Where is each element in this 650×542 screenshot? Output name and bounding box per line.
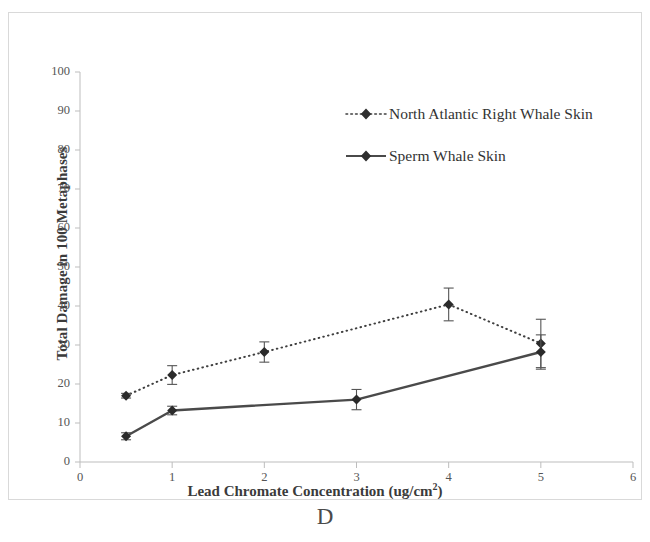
y-tick-label: 80 xyxy=(40,142,70,157)
y-tick-label: 70 xyxy=(40,181,70,196)
data-point-marker xyxy=(121,391,131,401)
figure-root: Total Damage in 100 Metaphases Lead Chro… xyxy=(0,0,650,542)
data-point-marker xyxy=(259,347,269,357)
x-tick-label: 5 xyxy=(528,470,554,485)
y-tick-label: 50 xyxy=(40,259,70,274)
legend-marker-solid-line-icon xyxy=(345,148,387,164)
y-tick-label: 90 xyxy=(40,103,70,118)
legend-item-north-atlantic-right-whale-skin[interactable]: North Atlantic Right Whale Skin xyxy=(345,100,620,128)
x-axis-title-tail: ) xyxy=(438,483,443,499)
legend-item-sperm-whale-skin[interactable]: Sperm Whale Skin xyxy=(345,142,620,170)
panel-letter: D xyxy=(0,504,650,530)
data-point-marker xyxy=(167,370,177,380)
y-tick-label: 10 xyxy=(40,415,70,430)
data-series-sperm-whale-skin xyxy=(121,335,546,441)
y-tick-label: 100 xyxy=(40,64,70,79)
x-tick-label: 0 xyxy=(67,470,93,485)
y-tick-label: 30 xyxy=(40,337,70,352)
y-tick-label: 0 xyxy=(40,454,70,469)
legend-label: Sperm Whale Skin xyxy=(387,147,506,165)
chart-legend: North Atlantic Right Whale Skin Sperm Wh… xyxy=(345,100,620,184)
data-point-marker xyxy=(444,299,454,309)
data-point-marker xyxy=(352,395,362,405)
series-line xyxy=(126,304,541,395)
data-point-marker xyxy=(167,406,177,416)
data-series-north-atlantic-right-whale-skin xyxy=(121,288,546,401)
y-tick-label: 60 xyxy=(40,220,70,235)
x-tick-label: 3 xyxy=(344,470,370,485)
data-point-marker xyxy=(536,347,546,357)
legend-label: North Atlantic Right Whale Skin xyxy=(387,105,593,123)
y-tick-label: 20 xyxy=(40,376,70,391)
series-group xyxy=(121,288,546,441)
x-tick-label: 4 xyxy=(436,470,462,485)
x-axis-title: Lead Chromate Concentration (ug/cm2) xyxy=(80,483,550,500)
x-axis-title-base: Lead Chromate Concentration (ug/cm xyxy=(187,483,432,499)
x-tick-label: 6 xyxy=(620,470,646,485)
series-line xyxy=(126,352,541,436)
plot-area xyxy=(0,0,650,542)
legend-marker-dotted-line-icon xyxy=(345,106,387,122)
y-tick-label: 40 xyxy=(40,298,70,313)
x-tick-label: 1 xyxy=(159,470,185,485)
x-tick-label: 2 xyxy=(251,470,277,485)
